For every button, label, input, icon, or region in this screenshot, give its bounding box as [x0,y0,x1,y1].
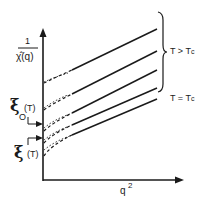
t-equals-tc-label: T = Tc [170,94,194,103]
curve-5-critical [44,99,157,156]
t-greater-tc-sub: c [191,48,195,55]
x-label-base: q [120,186,126,196]
curve-4 [44,88,157,143]
x-axis-arrow-icon [175,177,184,184]
brace-icon [158,12,167,92]
xi-symbol: ξ [14,145,23,161]
x-label-exponent: 2 [128,182,132,190]
diagram-canvas: 1 χ̂(q) ξ (T) O ξ (T) q 2 T > Tc T = Tc [0,0,206,206]
xi0-subscript: O [19,113,26,122]
y-axis-arrow-icon [40,28,47,37]
curve-1 [44,29,157,83]
y-label-denominator: χ̂(q) [16,52,33,62]
t-greater-tc-text: T > T [170,46,191,56]
xi-arrowhead-icon [36,135,43,141]
curve-2 [44,51,157,110]
y-label-numerator: 1 [25,37,30,46]
xi0-arrowhead-icon [36,121,43,127]
t-greater-tc-label: T > Tc [170,47,194,56]
t-equals-tc-text: T = T [170,93,191,103]
xi-arg: (T) [27,150,39,159]
t-equals-tc-sub: c [191,95,195,102]
